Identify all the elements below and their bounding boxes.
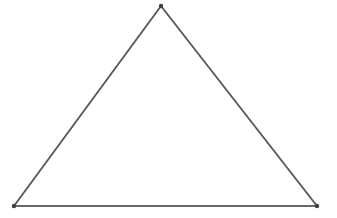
- figure-canvas: [0, 0, 337, 218]
- figure-background: [0, 0, 337, 218]
- vertex-bottom-left-marker: [12, 204, 16, 208]
- vertex-bottom-right-marker: [315, 204, 319, 208]
- triangle-figure: [0, 0, 337, 218]
- vertex-apex-marker: [159, 4, 163, 8]
